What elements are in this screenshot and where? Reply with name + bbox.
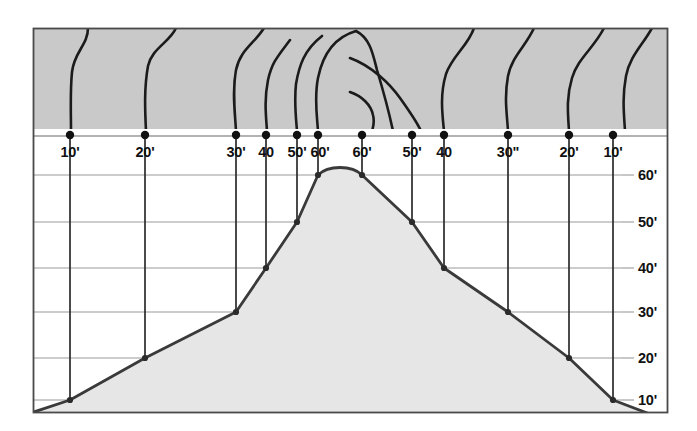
- profile-vertex: [263, 265, 269, 271]
- station-label: 30': [227, 144, 246, 160]
- station-dot[interactable]: [293, 131, 301, 139]
- profile-vertex: [566, 355, 572, 361]
- topographic-profile-figure: [0, 0, 697, 431]
- station-dot[interactable]: [358, 131, 366, 139]
- station-dot[interactable]: [262, 131, 270, 139]
- station-label: 20': [560, 144, 579, 160]
- y-axis-label-30: 30': [638, 304, 657, 320]
- station-label: 60': [353, 144, 372, 160]
- profile-vertex: [610, 397, 616, 403]
- station-dot[interactable]: [408, 131, 416, 139]
- profile-vertex: [142, 355, 148, 361]
- y-axis-label-40: 40': [638, 260, 657, 276]
- station-dot[interactable]: [504, 131, 512, 139]
- y-axis-label-60: 60': [638, 167, 657, 183]
- profile-vertex: [315, 172, 321, 178]
- station-label: 50': [288, 144, 307, 160]
- station-label: 30": [497, 144, 519, 160]
- figure-container: 10' 20' 30' 40 50' 60' 60' 50' 40 30" 20…: [0, 0, 697, 431]
- station-dot[interactable]: [609, 131, 617, 139]
- station-label: 40: [436, 144, 452, 160]
- profile-vertex: [505, 309, 511, 315]
- profile-vertex: [233, 309, 239, 315]
- profile-vertex: [441, 265, 447, 271]
- station-dot[interactable]: [440, 131, 448, 139]
- station-label: 60': [311, 144, 330, 160]
- station-label: 50': [403, 144, 422, 160]
- y-axis-label-10: 10': [638, 392, 657, 408]
- profile-vertex: [409, 219, 415, 225]
- station-dot[interactable]: [141, 131, 149, 139]
- station-label: 10': [61, 144, 80, 160]
- profile-vertex: [359, 172, 365, 178]
- y-axis-label-50: 50': [638, 214, 657, 230]
- station-label: 20': [136, 144, 155, 160]
- station-dot[interactable]: [66, 131, 74, 139]
- station-dot[interactable]: [565, 131, 573, 139]
- profile-vertex: [294, 219, 300, 225]
- station-label: 40: [258, 144, 274, 160]
- station-dot[interactable]: [314, 131, 322, 139]
- y-axis-label-20: 20': [638, 350, 657, 366]
- contour-map-panel: [33, 28, 668, 131]
- station-dot[interactable]: [232, 131, 240, 139]
- profile-vertex: [67, 397, 73, 403]
- station-label: 10': [604, 144, 623, 160]
